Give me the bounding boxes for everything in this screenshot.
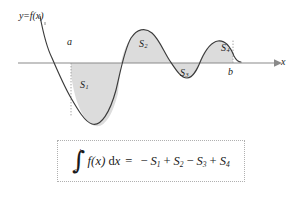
equation-box: ∫ b a f(x) dx = − S1 + S2 − S3 + S4	[57, 140, 245, 182]
region-label-s4-sub: 4	[226, 46, 229, 53]
region-label-s1-sub: 1	[85, 83, 88, 90]
term-3-sub: 3	[203, 159, 207, 168]
region-s1-fill	[71, 63, 121, 126]
region-label-s3: S3	[180, 68, 188, 79]
term-1-sign: −	[140, 154, 147, 169]
integral-upper-limit: b	[79, 147, 83, 155]
function-label-expression: f(x)	[30, 10, 44, 21]
region-label-s4: S4	[221, 43, 229, 54]
term-1-sub: 1	[157, 159, 161, 168]
integral-lower-limit: a	[74, 166, 78, 174]
term-4-sign: +	[210, 154, 217, 169]
term-1: S1	[150, 154, 160, 169]
x-axis-label: x	[281, 57, 285, 67]
integral-with-limits: ∫ b a	[72, 150, 85, 172]
differential-variable: x	[115, 154, 121, 168]
function-label-equals: =	[24, 10, 30, 21]
term-2-sign: +	[163, 154, 170, 169]
region-label-s1: S1	[80, 80, 88, 91]
region-label-s2-sub: 2	[144, 42, 147, 49]
function-label: y=f(x)	[19, 11, 44, 21]
region-label-s3-sub: 3	[185, 71, 188, 78]
figure-container: y=f(x) a b x S1 S2 S3 S4 ∫ b a f(x) dx =…	[0, 0, 296, 198]
term-3-sign: −	[187, 154, 194, 169]
limit-label-a: a	[67, 37, 72, 47]
term-2-sub: 2	[180, 159, 184, 168]
graph-canvas	[0, 0, 296, 140]
equation-formula: ∫ b a f(x) dx = − S1 + S2 − S3 + S4	[58, 141, 244, 181]
limit-label-b: b	[228, 67, 233, 77]
differential-dx: dx	[109, 154, 121, 169]
equals-sign: =	[125, 154, 132, 169]
term-4: S4	[220, 154, 230, 169]
region-label-s2: S2	[139, 39, 147, 50]
integrand-expression: f(x)	[87, 154, 105, 169]
term-2: S2	[174, 154, 184, 169]
term-4-sub: 4	[226, 159, 230, 168]
term-3: S3	[197, 154, 207, 169]
function-label-y: y	[19, 10, 23, 21]
